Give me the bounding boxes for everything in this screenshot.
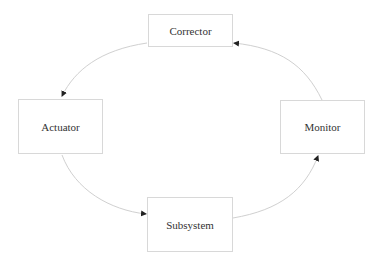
edge-subsystem-monitor (233, 156, 318, 218)
node-label: Monitor (304, 121, 340, 133)
node-corrector: Corrector (148, 14, 233, 47)
node-monitor: Monitor (280, 100, 365, 154)
edge-corrector-actuator (62, 43, 147, 96)
cycle-diagram: Corrector Actuator Subsystem Monitor (0, 0, 378, 265)
node-label: Corrector (169, 25, 211, 37)
node-label: Subsystem (166, 219, 214, 231)
node-actuator: Actuator (18, 99, 103, 154)
edge-monitor-corrector (234, 43, 322, 100)
node-subsystem: Subsystem (147, 197, 233, 252)
node-label: Actuator (41, 121, 79, 133)
edge-actuator-subsystem (62, 155, 146, 214)
